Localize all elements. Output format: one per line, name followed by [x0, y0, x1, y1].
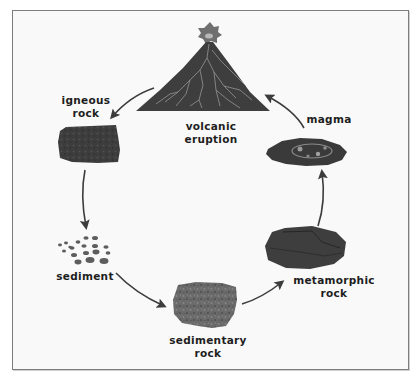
volcano-icon	[136, 22, 270, 111]
label-line: sediment	[54, 270, 116, 283]
arrow-magma-to-volcano	[267, 96, 304, 128]
label-line: sedimentary	[160, 334, 256, 347]
metamorphic-rock-icon	[265, 226, 346, 269]
label-line: eruption	[178, 133, 244, 146]
node-label-metamorphic-rock: metamorphic rock	[290, 274, 378, 299]
arrow-sedimentary-to-metamorphic	[242, 282, 282, 304]
arrow-sediment-to-sedimentary	[116, 273, 164, 306]
arrow-igneous-to-sediment	[83, 170, 86, 227]
sedimentary-rock-icon	[173, 282, 237, 328]
node-label-magma: magma	[304, 113, 354, 126]
label-line: metamorphic	[290, 274, 378, 287]
magma-icon	[266, 138, 347, 166]
node-label-sedimentary-rock: sedimentary rock	[160, 334, 256, 359]
label-line: igneous	[58, 94, 114, 107]
rock-cycle-diagram	[0, 0, 420, 384]
node-label-volcanic-eruption: volcanic eruption	[178, 120, 244, 145]
arrow-metamorphic-to-magma	[318, 172, 323, 226]
node-label-igneous-rock: igneous rock	[58, 94, 114, 119]
label-line: rock	[160, 347, 256, 360]
igneous-rock-icon	[58, 125, 120, 163]
sediment-pebbles-icon	[58, 236, 110, 264]
node-label-sediment: sediment	[54, 270, 116, 283]
label-line: volcanic	[178, 120, 244, 133]
label-line: rock	[58, 107, 114, 120]
label-line: rock	[290, 287, 378, 300]
label-line: magma	[304, 113, 354, 126]
